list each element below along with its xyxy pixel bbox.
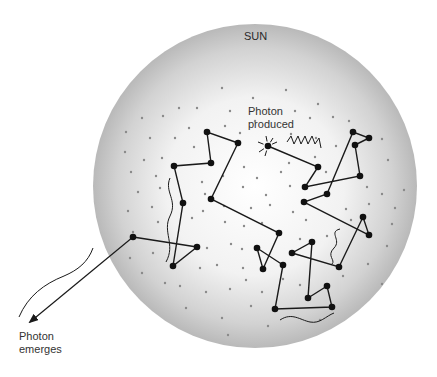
particle-dot bbox=[155, 175, 157, 177]
scatter-node bbox=[194, 244, 201, 251]
particle-dot bbox=[125, 131, 127, 133]
photon-emerges-label: Photon emerges bbox=[19, 330, 62, 356]
scatter-node bbox=[260, 266, 267, 273]
particle-dot bbox=[332, 116, 334, 118]
particle-dot bbox=[127, 210, 129, 212]
particle-dot bbox=[335, 145, 337, 147]
particle-dot bbox=[143, 159, 145, 161]
particle-dot bbox=[250, 207, 252, 209]
photon-produced-line1: Photon bbox=[248, 105, 294, 118]
exit-arrow bbox=[30, 237, 133, 322]
scatter-node bbox=[170, 263, 177, 270]
particle-dot bbox=[242, 186, 244, 188]
particle-dot bbox=[366, 186, 368, 188]
particle-dot bbox=[317, 103, 319, 105]
particle-dot bbox=[124, 151, 126, 153]
particle-dot bbox=[292, 211, 294, 213]
particle-dot bbox=[403, 189, 405, 191]
scatter-node bbox=[302, 184, 309, 191]
particle-dot bbox=[159, 187, 161, 189]
particle-dot bbox=[201, 181, 203, 183]
scatter-node bbox=[315, 164, 322, 171]
particle-dot bbox=[152, 252, 154, 254]
scatter-node bbox=[208, 196, 215, 203]
particle-dot bbox=[157, 221, 159, 223]
particle-dot bbox=[299, 284, 301, 286]
particle-dot bbox=[241, 248, 243, 250]
particle-dot bbox=[130, 171, 132, 173]
particle-dot bbox=[216, 264, 218, 266]
particle-dot bbox=[368, 203, 370, 205]
particle-dot bbox=[227, 334, 229, 336]
particle-dot bbox=[141, 272, 143, 274]
particle-dot bbox=[206, 247, 208, 249]
photon-produced-label: Photon produced bbox=[248, 105, 294, 131]
particle-dot bbox=[137, 191, 139, 193]
particle-dot bbox=[224, 125, 226, 127]
particle-dot bbox=[221, 87, 223, 89]
particle-dot bbox=[202, 210, 204, 212]
particle-dot bbox=[294, 110, 296, 112]
particle-dot bbox=[391, 223, 393, 225]
scatter-node bbox=[235, 140, 242, 147]
particle-dot bbox=[245, 279, 247, 281]
scatter-node bbox=[180, 200, 187, 207]
particle-dot bbox=[178, 107, 180, 109]
particle-dot bbox=[285, 89, 287, 91]
scatter-node bbox=[301, 199, 308, 206]
particle-dot bbox=[350, 219, 352, 221]
particle-dot bbox=[309, 117, 311, 119]
photon-emerges-line1: Photon bbox=[19, 330, 62, 343]
particle-dot bbox=[162, 115, 164, 117]
particle-dot bbox=[381, 193, 383, 195]
particle-dot bbox=[269, 204, 271, 206]
scatter-node bbox=[204, 129, 211, 136]
scatter-node bbox=[280, 262, 287, 269]
scatter-node bbox=[336, 264, 343, 271]
particle-dot bbox=[315, 137, 317, 139]
particle-dot bbox=[314, 156, 316, 158]
scatter-node bbox=[324, 191, 331, 198]
scatter-node bbox=[350, 129, 357, 136]
particle-dot bbox=[242, 267, 244, 269]
particle-dot bbox=[252, 97, 254, 99]
particle-dot bbox=[191, 217, 193, 219]
particle-dot bbox=[179, 285, 181, 287]
particle-dot bbox=[305, 219, 307, 221]
particle-dot bbox=[141, 117, 143, 119]
particle-dot bbox=[348, 120, 350, 122]
photon-produced-line2: produced bbox=[248, 118, 294, 131]
scatter-node bbox=[130, 234, 137, 241]
particle-dot bbox=[196, 107, 198, 109]
particle-dot bbox=[161, 157, 163, 159]
particle-dot bbox=[265, 194, 267, 196]
particle-dot bbox=[267, 325, 269, 327]
scatter-node bbox=[254, 245, 261, 252]
particle-dot bbox=[367, 263, 369, 265]
particle-dot bbox=[224, 221, 226, 223]
particle-dot bbox=[288, 162, 290, 164]
sun-disc bbox=[93, 24, 417, 348]
particle-dot bbox=[174, 137, 176, 139]
photon-random-walk-diagram bbox=[0, 0, 437, 377]
particle-dot bbox=[256, 177, 258, 179]
scatter-node bbox=[171, 163, 178, 170]
scatter-node bbox=[329, 304, 336, 311]
exit-wave-squiggle bbox=[19, 248, 93, 317]
particle-dot bbox=[325, 171, 327, 173]
particle-dot bbox=[151, 206, 153, 208]
particle-dot bbox=[188, 127, 190, 129]
particle-dot bbox=[290, 133, 292, 135]
particle-dot bbox=[261, 291, 263, 293]
particle-dot bbox=[229, 288, 231, 290]
scatter-node bbox=[366, 135, 373, 142]
particle-dot bbox=[345, 208, 347, 210]
scatter-node bbox=[324, 283, 331, 290]
particle-dot bbox=[230, 243, 232, 245]
particle-dot bbox=[229, 110, 231, 112]
scatter-node bbox=[289, 250, 296, 257]
particle-dot bbox=[204, 193, 206, 195]
particle-dot bbox=[282, 278, 284, 280]
particle-dot bbox=[381, 138, 383, 140]
particle-dot bbox=[280, 171, 282, 173]
